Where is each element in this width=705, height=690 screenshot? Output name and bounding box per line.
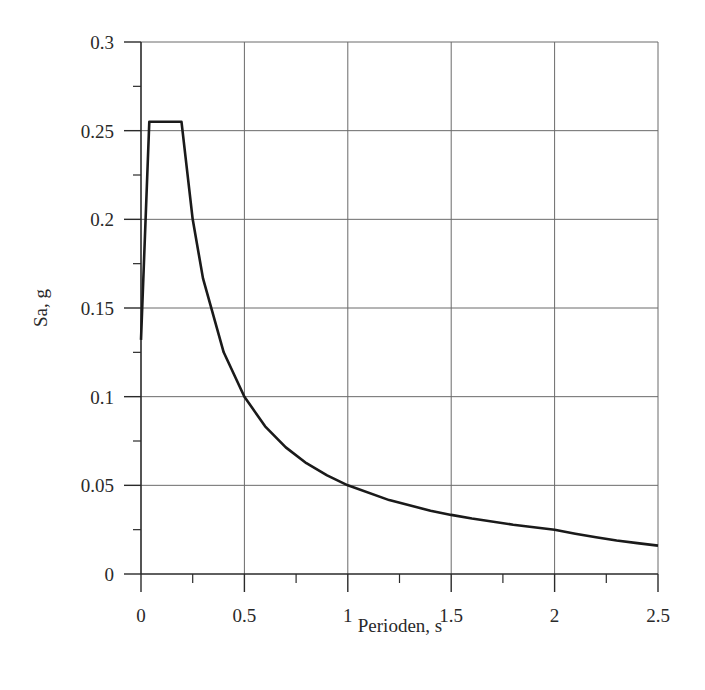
y-tick-label: 0	[105, 564, 115, 585]
x-tick-label: 2	[550, 605, 560, 626]
x-tick-label: 0.5	[233, 605, 257, 626]
x-tick-label: 1.5	[439, 605, 463, 626]
y-tick-label: 0.3	[90, 32, 114, 53]
response-spectrum-chart: 00.511.522.5 00.050.10.150.20.250.3 Peri…	[0, 0, 705, 690]
tick-marks	[124, 42, 658, 592]
y-axis-title: Sa, g	[30, 289, 51, 328]
x-axis-title: Perioden, s	[358, 615, 442, 636]
x-tick-label: 1	[343, 605, 353, 626]
x-tick-label: 0	[136, 605, 146, 626]
grid-lines	[141, 42, 658, 574]
x-tick-label: 2.5	[646, 605, 670, 626]
spectrum-curve	[141, 122, 658, 546]
y-tick-label: 0.2	[90, 209, 114, 230]
y-tick-label: 0.25	[81, 121, 114, 142]
y-tick-label: 0.15	[81, 298, 114, 319]
y-tick-label: 0.05	[81, 475, 114, 496]
y-tick-label: 0.1	[90, 387, 114, 408]
y-tick-labels: 00.050.10.150.20.250.3	[81, 32, 114, 585]
